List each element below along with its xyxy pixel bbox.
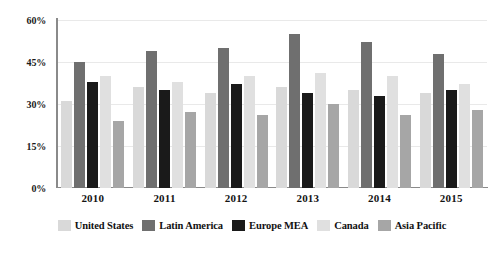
x-axis-tick-label-2014: 2014 [344,192,416,204]
bar-united-states-2014[interactable] [348,90,359,188]
bar-europe-mea-2014[interactable] [374,96,385,188]
plot-area [57,20,487,188]
bar-canada-2012[interactable] [244,76,255,188]
x-axis-tick-label-2010: 2010 [57,192,129,204]
bar-asia-pacific-2014[interactable] [400,115,411,188]
legend-label-united-states: United States [75,220,134,231]
bar-canada-2015[interactable] [459,84,470,188]
legend-item-canada[interactable]: Canada [317,220,368,231]
bar-asia-pacific-2013[interactable] [328,104,339,188]
legend-swatch-united-states [58,220,71,231]
legend-item-latin-america[interactable]: Latin America [142,220,223,231]
legend-label-latin-america: Latin America [159,220,223,231]
x-axis-tick-label-2013: 2013 [272,192,344,204]
bar-group-2013 [276,20,339,188]
bar-latin-america-2011[interactable] [146,51,157,188]
bar-group-2015 [420,20,483,188]
bar-canada-2014[interactable] [387,76,398,188]
legend-label-asia-pacific: Asia Pacific [395,220,447,231]
x-axis-tick-label-2011: 2011 [129,192,201,204]
bar-europe-mea-2011[interactable] [159,90,170,188]
bar-asia-pacific-2010[interactable] [113,121,124,188]
bar-united-states-2010[interactable] [61,101,72,188]
bar-united-states-2015[interactable] [420,93,431,188]
bar-latin-america-2012[interactable] [218,48,229,188]
legend-item-europe-mea[interactable]: Europe MEA [232,220,308,231]
y-axis-tick-label: 15% [27,141,46,152]
x-axis-tick-label-2015: 2015 [415,192,487,204]
bar-latin-america-2015[interactable] [433,54,444,188]
bar-united-states-2011[interactable] [133,87,144,188]
bar-asia-pacific-2011[interactable] [185,112,196,188]
bar-group-2010 [61,20,124,188]
bar-europe-mea-2010[interactable] [87,82,98,188]
x-axis-tick-label-2012: 2012 [200,192,272,204]
y-axis-tick-label: 45% [27,57,46,68]
bar-chart-figure: 0%15%30%45%60% 201020112012201320142015 … [0,0,504,257]
y-axis-tick-labels: 0%15%30%45%60% [0,0,54,257]
legend-label-europe-mea: Europe MEA [249,220,308,231]
y-axis-tick-label: 30% [27,99,46,110]
legend-item-united-states[interactable]: United States [58,220,134,231]
legend-item-asia-pacific[interactable]: Asia Pacific [378,220,447,231]
bar-group-2012 [205,20,268,188]
bar-europe-mea-2013[interactable] [302,93,313,188]
bar-group-2011 [133,20,196,188]
y-axis-tick-label: 0% [31,183,46,194]
bar-united-states-2013[interactable] [276,87,287,188]
legend-swatch-canada [317,220,330,231]
bar-asia-pacific-2012[interactable] [257,115,268,188]
bar-latin-america-2013[interactable] [289,34,300,188]
bar-groups [57,20,487,188]
bar-group-2014 [348,20,411,188]
bar-canada-2011[interactable] [172,82,183,188]
x-axis-tick-labels: 201020112012201320142015 [57,192,487,204]
bar-europe-mea-2012[interactable] [231,84,242,188]
bar-canada-2013[interactable] [315,73,326,188]
bar-canada-2010[interactable] [100,76,111,188]
bar-europe-mea-2015[interactable] [446,90,457,188]
legend-swatch-asia-pacific [378,220,391,231]
legend-swatch-europe-mea [232,220,245,231]
bar-latin-america-2014[interactable] [361,42,372,188]
bar-latin-america-2010[interactable] [74,62,85,188]
y-axis-tick-label: 60% [27,15,46,26]
bar-asia-pacific-2015[interactable] [472,110,483,188]
bar-united-states-2012[interactable] [205,93,216,188]
legend-label-canada: Canada [334,220,368,231]
chart-legend: United StatesLatin AmericaEurope MEACana… [0,220,504,231]
legend-swatch-latin-america [142,220,155,231]
